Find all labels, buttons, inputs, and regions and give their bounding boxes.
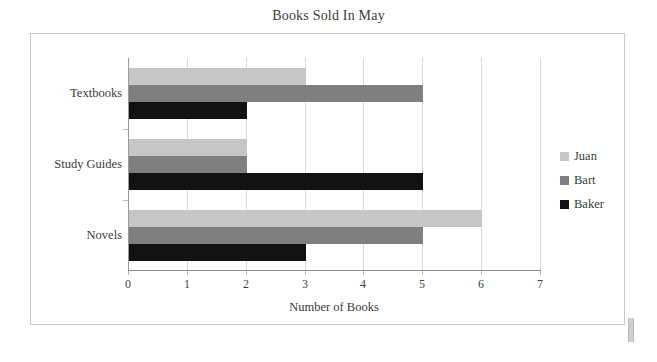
bar-bart-study-guides xyxy=(129,156,247,173)
x-axis-line xyxy=(128,270,541,271)
chart-legend: JuanBartBaker xyxy=(560,144,622,216)
legend-item-juan[interactable]: Juan xyxy=(560,144,622,168)
legend-label: Baker xyxy=(574,198,604,211)
gridline xyxy=(481,58,482,271)
x-tick-mark xyxy=(305,271,306,275)
chart-title: Books Sold In May xyxy=(0,8,657,24)
bar-baker-study-guides xyxy=(129,173,423,190)
legend-label: Bart xyxy=(574,174,596,187)
x-tick-mark xyxy=(363,271,364,275)
x-tick-label: 3 xyxy=(285,277,325,292)
x-tick-label: 1 xyxy=(167,277,207,292)
bar-bart-novels xyxy=(129,227,423,244)
x-tick-label: 7 xyxy=(520,277,560,292)
x-tick-mark xyxy=(187,271,188,275)
x-tick-label: 4 xyxy=(343,277,383,292)
window-edge-artifact xyxy=(628,318,634,342)
y-axis-line xyxy=(128,58,129,271)
x-axis-title: Number of Books xyxy=(128,300,540,315)
x-tick-mark xyxy=(540,271,541,275)
bar-juan-textbooks xyxy=(129,68,306,85)
y-axis-category-label: Novels xyxy=(2,228,122,243)
legend-swatch-baker xyxy=(560,200,569,209)
bar-bart-textbooks xyxy=(129,85,423,102)
legend-item-bart[interactable]: Bart xyxy=(560,168,622,192)
x-tick-label: 6 xyxy=(461,277,501,292)
y-axis-category-label: Textbooks xyxy=(2,86,122,101)
y-axis-category-label: Study Guides xyxy=(2,157,122,172)
bar-baker-novels xyxy=(129,244,306,261)
x-tick-mark xyxy=(422,271,423,275)
legend-item-baker[interactable]: Baker xyxy=(560,192,622,216)
x-tick-mark xyxy=(481,271,482,275)
bar-juan-novels xyxy=(129,210,482,227)
legend-swatch-bart xyxy=(560,176,569,185)
x-tick-label: 2 xyxy=(226,277,266,292)
bar-baker-textbooks xyxy=(129,102,247,119)
x-tick-label: 5 xyxy=(402,277,442,292)
x-tick-mark xyxy=(128,271,129,275)
chart-container: Books Sold In May 01234567 TextbooksStud… xyxy=(0,0,657,362)
x-tick-mark xyxy=(246,271,247,275)
gridline xyxy=(540,58,541,271)
bar-juan-study-guides xyxy=(129,139,247,156)
legend-swatch-juan xyxy=(560,152,569,161)
x-tick-label: 0 xyxy=(108,277,148,292)
legend-label: Juan xyxy=(574,150,597,163)
